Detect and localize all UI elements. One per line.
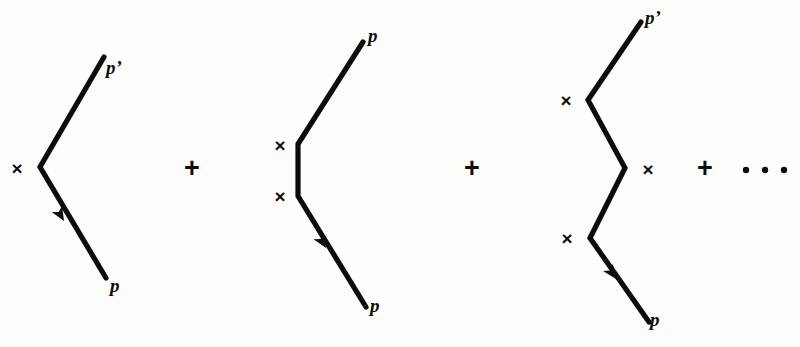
outgoing-momentum-label: p <box>366 25 378 46</box>
incoming-momentum-label: p <box>108 275 120 296</box>
first-order-diagram: ×p’p <box>11 57 121 296</box>
particle-worldline <box>588 22 649 322</box>
outgoing-momentum-label: p’ <box>643 7 661 28</box>
plus-2: + <box>464 153 480 183</box>
ellipsis-dot <box>743 167 749 173</box>
incoming-momentum-label: p <box>648 309 660 330</box>
scattering-center-cross: × <box>560 90 571 111</box>
incoming-momentum-label: p <box>368 295 380 316</box>
outgoing-momentum-label: p’ <box>104 57 122 78</box>
third-order-diagram: ×××p’p <box>560 7 660 330</box>
scattering-center-cross: × <box>561 228 572 249</box>
scattering-center-cross: × <box>642 159 653 180</box>
plus-1: + <box>184 153 200 183</box>
continuation-ellipsis <box>743 167 787 173</box>
ellipsis-dot <box>762 167 768 173</box>
plus-3: + <box>697 153 713 183</box>
diagram-canvas: ×p’p××pp×××p’p+++ <box>0 0 800 347</box>
second-order-diagram: ××pp <box>274 25 379 316</box>
ellipsis-dot <box>781 167 787 173</box>
scattering-center-cross: × <box>274 186 285 207</box>
particle-worldline <box>298 42 366 307</box>
scattering-center-cross: × <box>11 158 22 179</box>
particle-worldline <box>40 57 106 278</box>
scattering-center-cross: × <box>274 135 285 156</box>
scattering-series-figure: ×p’p××pp×××p’p+++ <box>0 0 800 347</box>
